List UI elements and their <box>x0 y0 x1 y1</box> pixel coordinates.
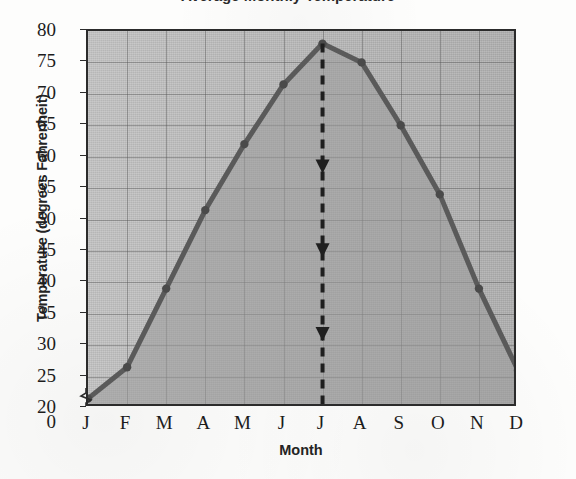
x-tick-label: O <box>423 412 453 434</box>
x-tick-label: J <box>267 412 297 434</box>
data-point-april <box>201 206 209 214</box>
y-tick-label: 45 <box>12 240 56 259</box>
x-tick-label: A <box>188 412 218 434</box>
plot-area <box>86 29 516 406</box>
data-point-august <box>357 58 365 66</box>
y-tick-label: 30 <box>12 334 56 353</box>
y-tick-label: 20 <box>12 397 56 416</box>
data-point-march <box>162 284 170 292</box>
data-point-september <box>397 121 405 129</box>
y-tick-mark <box>80 155 86 156</box>
y-tick-label: 80 <box>12 20 56 39</box>
y-tick-label: 65 <box>12 114 56 133</box>
y-tick-mark <box>80 60 86 61</box>
y-tick-mark <box>80 218 86 219</box>
axis-break-icon <box>78 388 94 406</box>
x-tick-label: M <box>227 412 257 434</box>
y-tick-mark <box>80 312 86 313</box>
x-tick-label: S <box>384 412 414 434</box>
data-point-november <box>475 284 483 292</box>
y-tick-label: 25 <box>12 366 56 385</box>
y-tick-label: 70 <box>12 83 56 102</box>
y-tick-label: 75 <box>12 51 56 70</box>
y-tick-label: 40 <box>12 271 56 290</box>
y-tick-mark <box>80 280 86 281</box>
y-tick-mark <box>80 123 86 124</box>
x-tick-label: D <box>501 412 531 434</box>
y-tick-mark <box>80 92 86 93</box>
x-tick-label: J <box>71 412 101 434</box>
y-tick-label: 60 <box>12 146 56 165</box>
y-tick-mark <box>80 249 86 250</box>
data-point-october <box>436 190 444 198</box>
y-tick-mark <box>80 406 86 407</box>
chart-title-text: Average Monthly Temperature <box>0 0 576 4</box>
y-tick-mark <box>80 29 86 30</box>
x-tick-label: N <box>462 412 492 434</box>
y-tick-label: 50 <box>12 209 56 228</box>
chart-page: Average Monthly Temperature Temperature … <box>0 0 576 479</box>
y-tick-mark <box>80 343 86 344</box>
data-point-june <box>279 80 287 88</box>
temperature-series <box>88 31 516 406</box>
x-tick-label: J <box>306 412 336 434</box>
y-tick-label: 55 <box>12 177 56 196</box>
data-point-december <box>514 366 516 374</box>
x-tick-label: A <box>345 412 375 434</box>
y-tick-mark <box>80 186 86 187</box>
y-tick-label: 35 <box>12 303 56 322</box>
cropped-chart-title: Average Monthly Temperature <box>0 0 576 7</box>
x-tick-label: M <box>149 412 179 434</box>
x-axis-title: Month <box>86 442 516 458</box>
data-point-february <box>123 363 131 371</box>
data-point-may <box>240 140 248 148</box>
x-tick-label: F <box>110 412 140 434</box>
y-tick-mark <box>80 375 86 376</box>
